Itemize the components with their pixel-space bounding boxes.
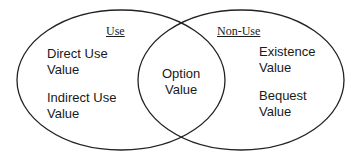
indirect-use-line2: Value (47, 106, 116, 122)
existence-line2: Value (259, 60, 315, 76)
non-use-set-title: Non-Use (217, 24, 260, 39)
use-set-title: Use (106, 24, 125, 39)
bequest-value-label: Bequest Value (259, 88, 307, 120)
bequest-line1: Bequest (259, 88, 307, 104)
direct-use-line2: Value (47, 62, 108, 78)
venn-diagram: Use Non-Use Direct Use Value Indirect Us… (0, 0, 363, 158)
existence-line1: Existence (259, 44, 315, 60)
indirect-use-line1: Indirect Use (47, 90, 116, 106)
option-value-label: Option Value (162, 66, 200, 98)
existence-value-label: Existence Value (259, 44, 315, 76)
indirect-use-value-label: Indirect Use Value (47, 90, 116, 122)
option-line1: Option (162, 66, 200, 82)
direct-use-line1: Direct Use (47, 46, 108, 62)
direct-use-value-label: Direct Use Value (47, 46, 108, 78)
option-line2: Value (162, 82, 200, 98)
bequest-line2: Value (259, 104, 307, 120)
